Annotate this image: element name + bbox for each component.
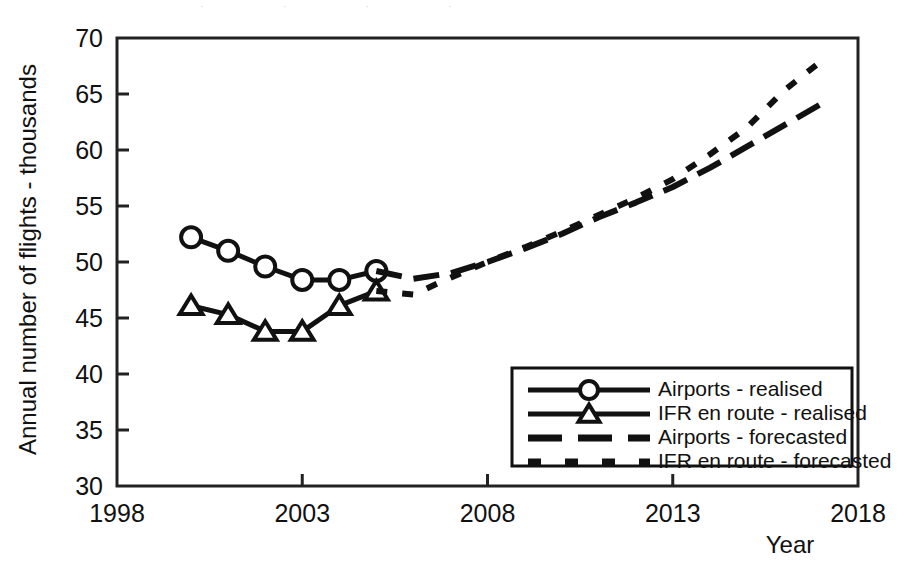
- data-point-circle: [292, 270, 312, 290]
- chart-legend: Airports - realisedIFR en route - realis…: [512, 368, 891, 472]
- legend-item-label: Airports - realised: [658, 377, 823, 400]
- y-tick-label: 70: [75, 24, 103, 52]
- y-tick-label: 45: [75, 304, 103, 332]
- data-point-circle: [181, 227, 201, 247]
- y-axis-tick-labels: 706560555045403530: [75, 24, 103, 500]
- y-tick-label: 65: [75, 80, 103, 108]
- y-tick-label: 60: [75, 136, 103, 164]
- y-tick-label: 50: [75, 248, 103, 276]
- data-point-circle: [255, 256, 275, 276]
- y-axis-title: Annual number of flights - thousands: [14, 64, 41, 455]
- x-tick-label: 2003: [274, 499, 330, 527]
- chart-svg: 706560555045403530 19982003200820132018 …: [0, 0, 907, 575]
- y-tick-label: 40: [75, 360, 103, 388]
- legend-item-label: IFR en route - forecasted: [658, 449, 891, 472]
- legend-item-label: IFR en route - realised: [658, 401, 867, 424]
- x-axis-tick-labels: 19982003200820132018: [89, 499, 886, 527]
- x-tick-label: 2018: [830, 499, 886, 527]
- x-axis-title: Year: [766, 531, 815, 558]
- legend-item-label: Airports - forecasted: [658, 425, 847, 448]
- chart-figure: · · · · 706560555045403530 1998200320082…: [0, 0, 907, 575]
- y-tick-label: 35: [75, 416, 103, 444]
- data-point-circle: [218, 241, 238, 261]
- y-tick-label: 30: [75, 472, 103, 500]
- x-tick-label: 2013: [645, 499, 701, 527]
- y-tick-label: 55: [75, 192, 103, 220]
- x-tick-label: 1998: [89, 499, 145, 527]
- data-point-circle: [329, 270, 349, 290]
- x-tick-label: 2008: [460, 499, 516, 527]
- legend-marker-circle: [580, 381, 598, 399]
